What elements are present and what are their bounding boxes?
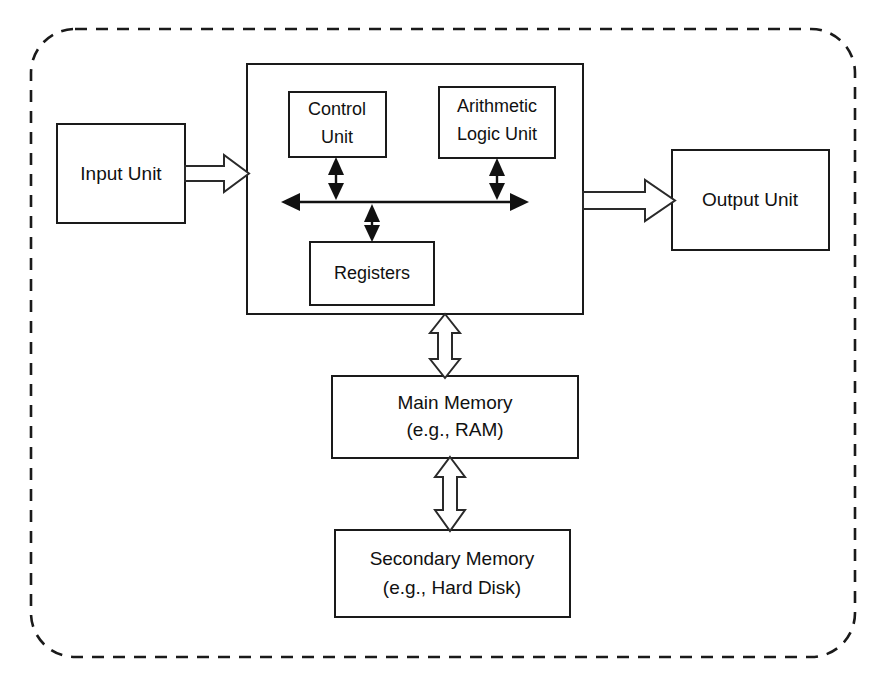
input-to-cpu-arrow [185,155,249,192]
main-memory-label-line1: Main Memory [397,392,513,413]
diagram-canvas: Input Unit Output Unit Control Unit Arit… [0,0,879,682]
alu-label-line2: Logic Unit [457,124,537,144]
output-unit-label: Output Unit [702,189,799,210]
main-memory-label-line2: (e.g., RAM) [406,419,503,440]
secondary-memory-box[interactable] [335,530,570,617]
input-unit-label: Input Unit [80,163,162,184]
computer-architecture-diagram: Input Unit Output Unit Control Unit Arit… [0,0,879,682]
secondary-memory-label-line2: (e.g., Hard Disk) [383,577,521,598]
registers-label: Registers [334,263,410,283]
cpu-to-output-arrow [583,180,675,221]
main-to-secondary-memory-arrow [435,457,465,531]
main-memory-box[interactable] [332,376,578,458]
alu-label-line1: Arithmetic [457,96,537,116]
secondary-memory-label-line1: Secondary Memory [370,548,535,569]
cpu-to-main-memory-arrow [430,314,460,378]
control-unit-label-line2: Unit [321,127,353,147]
control-unit-label-line1: Control [308,99,366,119]
